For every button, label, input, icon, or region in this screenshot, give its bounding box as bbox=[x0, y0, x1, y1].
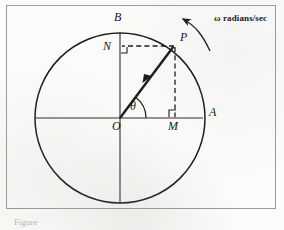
point-label-P: P bbox=[180, 31, 187, 43]
point-label-N: N bbox=[103, 40, 111, 52]
radius-vector-OP bbox=[120, 47, 174, 119]
right-angle-marker-N bbox=[121, 47, 127, 53]
figure-caption: Figure bbox=[14, 217, 38, 227]
angle-label-theta: θ bbox=[130, 99, 136, 114]
point-label-A: A bbox=[209, 106, 216, 118]
angular-velocity-label: ω radians/sec bbox=[214, 13, 267, 23]
point-label-O: O bbox=[112, 120, 121, 132]
circle-diagram bbox=[0, 0, 284, 230]
figure-root: B N P O M A θ ω radians/sec Figure bbox=[0, 0, 284, 230]
point-label-B: B bbox=[114, 11, 121, 23]
point-label-M: M bbox=[168, 120, 178, 132]
theta-arc bbox=[136, 97, 146, 118]
